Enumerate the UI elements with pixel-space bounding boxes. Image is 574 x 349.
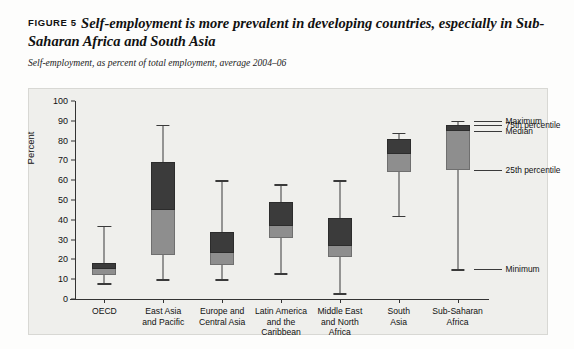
y-axis-line <box>75 101 76 299</box>
category-label-line: Africa <box>303 327 376 338</box>
figure-number-label: FIGURE 5 <box>28 17 77 28</box>
whisker-cap-min <box>98 283 111 285</box>
annotation-leader-line-maximum <box>474 121 502 122</box>
box-p25-to-median <box>92 269 116 275</box>
whisker-cap-min <box>392 216 405 218</box>
box-p25-to-median <box>328 246 352 258</box>
y-axis-tick-label: 30 <box>34 235 68 245</box>
chart-plot-area: Percent 0102030405060708090100 OECDEast … <box>28 88 548 335</box>
y-axis-tick-label: 50 <box>34 195 68 205</box>
figure-title-block: FIGURE 5 Self-employment is more prevale… <box>28 14 548 50</box>
box-median-to-p75 <box>269 202 293 226</box>
whisker-cap-max <box>216 180 229 182</box>
box-p25-to-median <box>210 253 234 265</box>
box-median-to-p75 <box>210 232 234 254</box>
x-axis-category-label-7: Sub-SaharanAfrica <box>421 306 494 327</box>
box-plot-1 <box>92 89 116 334</box>
annotation-leader-line-p25 <box>474 170 502 171</box>
figure-header: FIGURE 5 Self-employment is more prevale… <box>28 14 548 68</box>
box-p25-to-median <box>446 131 470 171</box>
annotation-label-p25: 25th percentile <box>506 165 561 175</box>
box-plot-2 <box>151 89 175 334</box>
box-median-to-p75 <box>387 139 411 155</box>
box-plot-3 <box>210 89 234 334</box>
annotation-leader-line-p75 <box>474 125 502 126</box>
y-axis-tick-label: 0 <box>34 294 68 304</box>
whisker-cap-max <box>157 125 170 127</box>
whisker-cap-max <box>392 133 405 135</box>
annotation-leader-line-median <box>474 131 502 132</box>
y-axis-tick-label: 90 <box>34 116 68 126</box>
whisker-cap-min <box>157 279 170 281</box>
box-plot-5 <box>328 89 352 334</box>
box-p25-to-median <box>151 210 175 256</box>
y-axis-tick-label: 100 <box>34 96 68 106</box>
box-plot-4 <box>269 89 293 334</box>
category-label-line: Africa <box>421 317 494 328</box>
whisker-cap-max <box>451 121 464 123</box>
whisker-cap-max <box>333 180 346 182</box>
annotation-label-median: Median <box>506 126 533 136</box>
y-axis-tick-label: 40 <box>34 215 68 225</box>
whisker-cap-max <box>274 184 287 186</box>
box-p25-to-median <box>269 226 293 238</box>
box-median-to-p75 <box>328 218 352 246</box>
figure-page: FIGURE 5 Self-employment is more prevale… <box>0 0 574 349</box>
y-axis-tick-label: 10 <box>34 274 68 284</box>
y-axis-tick-label: 20 <box>34 254 68 264</box>
whisker-cap-min <box>333 293 346 295</box>
y-axis-tick-label: 80 <box>34 136 68 146</box>
whisker-cap-min <box>451 269 464 271</box>
figure-subtitle: Self-employment, as percent of total emp… <box>28 57 548 68</box>
annotation-leader-line-minimum <box>474 269 502 270</box>
box-plot-7 <box>446 89 470 334</box>
y-axis-tick-label: 60 <box>34 175 68 185</box>
box-plot-6 <box>387 89 411 334</box>
page-title: Self-employment is more prevalent in dev… <box>28 15 544 49</box>
box-median-to-p75 <box>151 162 175 210</box>
whisker-cap-max <box>98 226 111 228</box>
whisker-cap-min <box>216 279 229 281</box>
y-axis-tick-label: 70 <box>34 155 68 165</box>
box-p25-to-median <box>387 154 411 172</box>
category-label-line: Sub-Saharan <box>421 306 494 317</box>
annotation-label-minimum: Minimum <box>506 264 540 274</box>
whisker-cap-min <box>274 273 287 275</box>
